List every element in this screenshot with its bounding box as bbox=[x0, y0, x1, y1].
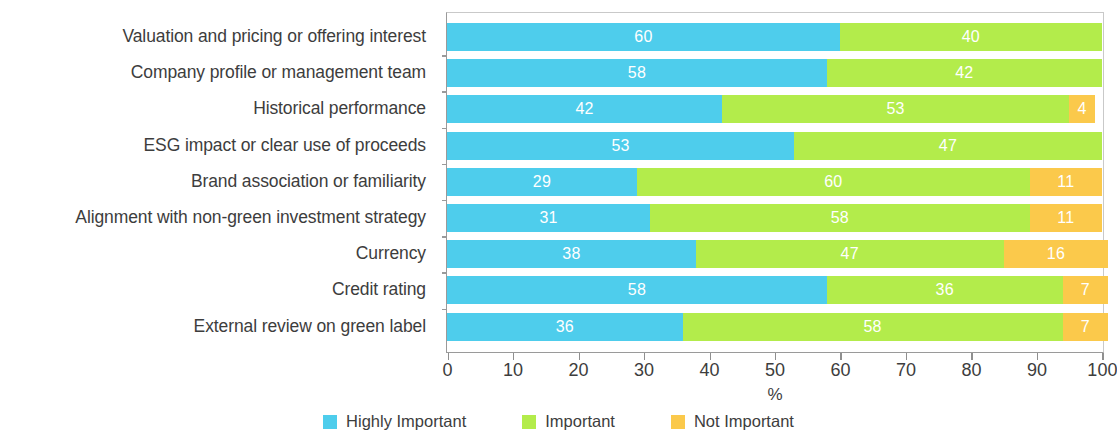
y-axis-tick bbox=[442, 236, 447, 237]
bar-segment: 16 bbox=[1004, 240, 1109, 268]
bar-segment: 7 bbox=[1063, 313, 1109, 341]
bar-value-label: 7 bbox=[1063, 313, 1109, 341]
bar-segment: 4 bbox=[1069, 95, 1095, 123]
x-axis-tick bbox=[513, 353, 514, 360]
bar-segment: 42 bbox=[827, 59, 1102, 87]
legend-swatch-icon bbox=[323, 415, 337, 429]
y-axis-tick bbox=[442, 272, 447, 273]
legend-swatch-icon bbox=[671, 415, 685, 429]
category-axis: Valuation and pricing or offering intere… bbox=[0, 22, 436, 348]
x-axis-title: % bbox=[446, 385, 1104, 405]
bar-segment: 7 bbox=[1063, 276, 1109, 304]
x-axis-tick-label: 100 bbox=[1087, 360, 1117, 381]
bar-segment: 36 bbox=[447, 313, 683, 341]
category-label: Credit rating bbox=[332, 275, 426, 303]
bar-value-label: 29 bbox=[447, 168, 637, 196]
bar-value-label: 40 bbox=[840, 23, 1102, 51]
x-axis-tick-label: 80 bbox=[961, 360, 981, 381]
x-axis-tick-label: 40 bbox=[700, 360, 720, 381]
bar-segment: 58 bbox=[447, 276, 827, 304]
x-axis-tick-label: 0 bbox=[443, 360, 453, 381]
bar-value-label: 60 bbox=[447, 23, 840, 51]
bar-value-label: 7 bbox=[1063, 276, 1109, 304]
bar-segment: 58 bbox=[447, 59, 827, 87]
legend-item[interactable]: Highly Important bbox=[323, 412, 466, 431]
x-axis-tick-label: 20 bbox=[569, 360, 589, 381]
plot-area: 6040584242534534729601131581138471658367… bbox=[446, 12, 1104, 353]
bar-value-label: 36 bbox=[827, 276, 1063, 304]
y-axis-tick bbox=[442, 309, 447, 310]
bar-value-label: 11 bbox=[1030, 204, 1102, 232]
category-label: Alignment with non-green investment stra… bbox=[75, 203, 426, 231]
bar-row: 42534 bbox=[447, 95, 1103, 123]
x-axis-tick bbox=[1037, 353, 1038, 360]
x-axis-tick bbox=[644, 353, 645, 360]
bar-value-label: 47 bbox=[794, 132, 1102, 160]
x-axis-tick bbox=[579, 353, 580, 360]
bar-segment: 58 bbox=[683, 313, 1063, 341]
bar-value-label: 58 bbox=[683, 313, 1063, 341]
bar-segment: 40 bbox=[840, 23, 1102, 51]
bar-segment: 60 bbox=[447, 23, 840, 51]
bar-segment: 47 bbox=[794, 132, 1102, 160]
bar-value-label: 4 bbox=[1069, 95, 1095, 123]
bar-row: 5842 bbox=[447, 59, 1103, 87]
bar-segment: 53 bbox=[447, 132, 794, 160]
bar-value-label: 36 bbox=[447, 313, 683, 341]
bar-value-label: 11 bbox=[1030, 168, 1102, 196]
category-label: Brand association or familiarity bbox=[191, 167, 426, 195]
bar-segment: 60 bbox=[637, 168, 1030, 196]
bar-row: 58367 bbox=[447, 276, 1103, 304]
category-label: ESG impact or clear use of proceeds bbox=[144, 131, 426, 159]
x-axis-tick bbox=[710, 353, 711, 360]
bar-row: 315811 bbox=[447, 204, 1103, 232]
bar-segment: 36 bbox=[827, 276, 1063, 304]
x-axis-tick bbox=[1102, 353, 1103, 360]
x-axis-tick-label: 30 bbox=[634, 360, 654, 381]
bar-value-label: 42 bbox=[447, 95, 722, 123]
x-axis-tick-label: 50 bbox=[765, 360, 785, 381]
y-axis-tick bbox=[442, 91, 447, 92]
bar-segment: 11 bbox=[1030, 204, 1102, 232]
category-label: Historical performance bbox=[253, 94, 426, 122]
bar-segment: 38 bbox=[447, 240, 696, 268]
x-axis-tick-label: 90 bbox=[1027, 360, 1047, 381]
bar-value-label: 42 bbox=[827, 59, 1102, 87]
y-axis-tick bbox=[442, 200, 447, 201]
y-axis-tick bbox=[442, 55, 447, 56]
bar-value-label: 60 bbox=[637, 168, 1030, 196]
x-axis-tick bbox=[448, 353, 449, 360]
bar-value-label: 47 bbox=[696, 240, 1004, 268]
bar-value-label: 53 bbox=[447, 132, 794, 160]
y-axis-tick bbox=[442, 164, 447, 165]
bar-segment: 53 bbox=[722, 95, 1069, 123]
bar-row: 6040 bbox=[447, 23, 1103, 51]
category-label: Valuation and pricing or offering intere… bbox=[122, 22, 426, 50]
stacked-bar-chart: Valuation and pricing or offering intere… bbox=[0, 0, 1117, 437]
bar-row: 384716 bbox=[447, 240, 1103, 268]
bar-segment: 58 bbox=[650, 204, 1030, 232]
bar-segment: 29 bbox=[447, 168, 637, 196]
category-label: Currency bbox=[356, 239, 426, 267]
x-axis-tick-label: 60 bbox=[830, 360, 850, 381]
x-axis-tick bbox=[840, 353, 841, 360]
legend-swatch-icon bbox=[522, 415, 536, 429]
bar-value-label: 16 bbox=[1004, 240, 1109, 268]
bar-value-label: 53 bbox=[722, 95, 1069, 123]
x-axis-tick-label: 70 bbox=[896, 360, 916, 381]
category-label: Company profile or management team bbox=[131, 58, 426, 86]
bar-row: 296011 bbox=[447, 168, 1103, 196]
bar-segment: 31 bbox=[447, 204, 650, 232]
bar-row: 36587 bbox=[447, 313, 1103, 341]
x-axis-tick-labels: 0102030405060708090100 bbox=[446, 360, 1104, 384]
legend-item[interactable]: Not Important bbox=[671, 412, 794, 431]
x-axis-tick bbox=[775, 353, 776, 360]
bar-value-label: 58 bbox=[447, 276, 827, 304]
bar-segment: 11 bbox=[1030, 168, 1102, 196]
bar-value-label: 58 bbox=[447, 59, 827, 87]
x-axis-tick-label: 10 bbox=[503, 360, 523, 381]
legend-label: Not Important bbox=[694, 412, 794, 431]
y-axis-tick bbox=[442, 128, 447, 129]
legend-item[interactable]: Important bbox=[522, 412, 615, 431]
chart-legend: Highly ImportantImportantNot Important bbox=[0, 412, 1117, 431]
